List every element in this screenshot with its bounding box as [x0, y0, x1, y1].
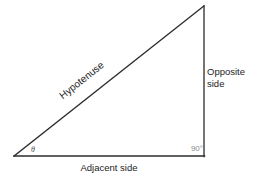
hypotenuse-line	[14, 6, 204, 156]
triangle-shape	[0, 0, 265, 179]
theta-angle-label: θ	[31, 144, 35, 155]
right-angle-label: 90°	[160, 143, 203, 154]
opposite-side-label-line1: Opposite	[207, 66, 245, 77]
opposite-side-label: Oppositeside	[207, 66, 245, 89]
opposite-side-label-line2: side	[207, 78, 224, 89]
diagram-canvas: Hypotenuse Oppositeside Adjacent side θ …	[0, 0, 265, 179]
adjacent-side-label: Adjacent side	[14, 162, 204, 173]
